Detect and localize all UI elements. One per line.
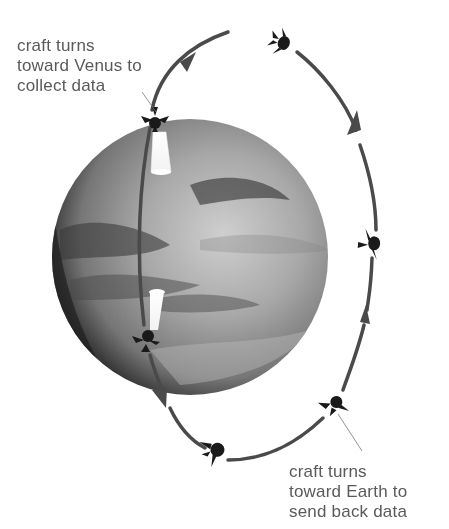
label-line: collect data: [17, 76, 142, 96]
venus-planet: [50, 119, 330, 395]
label-line: craft turns: [17, 36, 142, 56]
label-line: toward Venus to: [17, 56, 142, 76]
label-line: craft turns: [289, 462, 407, 482]
label-line: send back data: [289, 502, 407, 522]
label-send-data: craft turns toward Earth to send back da…: [289, 462, 407, 522]
label-line: toward Earth to: [289, 482, 407, 502]
label-collect-data: craft turns toward Venus to collect data: [17, 36, 142, 96]
leader-line-earth: [338, 414, 362, 451]
